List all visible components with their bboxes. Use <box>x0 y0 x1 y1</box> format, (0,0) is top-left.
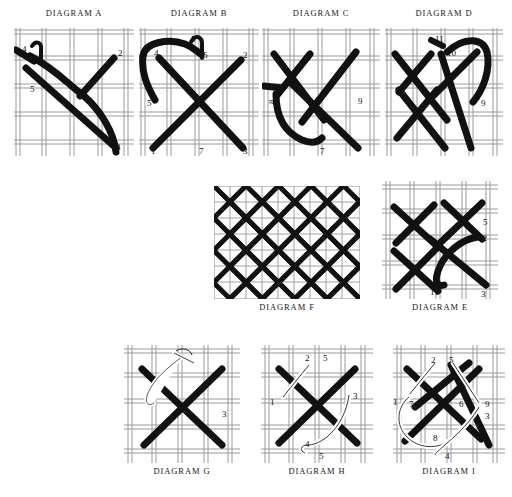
svg-text:1: 1 <box>270 397 275 407</box>
svg-text:7: 7 <box>320 146 325 156</box>
svg-text:12: 12 <box>478 233 487 243</box>
svg-text:2: 2 <box>305 353 310 363</box>
diagram-d-figure: 11 10 9 <box>385 28 503 156</box>
svg-text:2: 2 <box>431 355 436 365</box>
svg-text:4: 4 <box>445 451 450 461</box>
svg-text:4: 4 <box>22 44 27 54</box>
svg-text:5: 5 <box>323 353 328 363</box>
diagram-f-caption: DIAGRAM F <box>214 302 360 312</box>
svg-text:3: 3 <box>116 142 121 152</box>
diagram-c: DIAGRAM C 8 9 7 <box>262 8 380 156</box>
svg-text:2: 2 <box>243 50 248 60</box>
svg-text:11: 11 <box>430 287 439 297</box>
diagram-i-caption: DIAGRAM I <box>393 466 505 476</box>
svg-text:5: 5 <box>30 84 35 94</box>
svg-text:3: 3 <box>481 289 486 299</box>
diagram-h-caption: DIAGRAM H <box>261 466 373 476</box>
diagram-g-caption: DIAGRAM G <box>124 466 240 476</box>
diagram-b-caption: DIAGRAM B <box>139 8 259 18</box>
svg-text:6: 6 <box>459 399 464 409</box>
svg-text:8: 8 <box>433 433 438 443</box>
diagram-f: DIAGRAM F <box>214 186 360 321</box>
svg-text:10: 10 <box>447 48 457 58</box>
svg-text:9: 9 <box>481 98 486 108</box>
svg-text:5: 5 <box>191 34 196 44</box>
svg-text:8: 8 <box>267 99 277 104</box>
diagram-h-figure: 2 5 1 3 4 5 <box>261 345 373 463</box>
diagram-b: DIAGRAM B 4 5 6 2 5 <box>139 8 259 156</box>
svg-text:3: 3 <box>353 391 358 401</box>
diagram-e-figure: 5 12 11 3 <box>382 181 498 299</box>
svg-text:4: 4 <box>154 48 159 58</box>
diagram-i-figure: 2 5 1 7 6 9 3 8 4 <box>393 345 505 463</box>
diagram-e-caption: DIAGRAM E <box>382 302 498 312</box>
svg-text:3: 3 <box>485 411 490 421</box>
diagram-sheet: DIAGRAM A 4 2 5 3 <box>0 0 512 497</box>
svg-text:5: 5 <box>319 451 324 461</box>
diagram-d-caption: DIAGRAM D <box>385 8 503 18</box>
svg-text:4: 4 <box>305 439 310 449</box>
diagram-c-figure: 8 9 7 <box>262 28 380 156</box>
svg-text:1: 1 <box>393 397 398 407</box>
diagram-a: DIAGRAM A 4 2 5 3 <box>14 8 134 156</box>
diagram-h: 2 5 1 3 4 5 DIAGRAM H <box>261 345 373 485</box>
svg-text:9: 9 <box>485 399 490 409</box>
svg-text:11: 11 <box>435 34 444 44</box>
svg-text:3: 3 <box>243 146 248 156</box>
diagram-f-figure <box>214 186 360 299</box>
diagram-a-figure: 4 2 5 3 <box>14 28 134 156</box>
svg-text:5: 5 <box>449 355 454 365</box>
diagram-d: DIAGRAM D 11 10 <box>385 8 503 156</box>
diagram-c-caption: DIAGRAM C <box>262 8 380 18</box>
diagram-b-figure: 4 5 6 2 5 1 7 3 <box>139 28 259 156</box>
diagram-i: 2 5 1 7 6 9 3 8 4 DIAGRAM I <box>393 345 505 485</box>
svg-text:1: 1 <box>151 146 156 156</box>
svg-text:3: 3 <box>222 409 227 419</box>
diagram-g: 3 DIAGRAM G <box>124 345 240 485</box>
diagram-e: 5 12 11 3 DIAGRAM E <box>382 181 498 321</box>
svg-text:5: 5 <box>147 98 152 108</box>
svg-text:5: 5 <box>483 217 488 227</box>
svg-text:2: 2 <box>118 48 123 58</box>
svg-text:9: 9 <box>358 96 363 106</box>
svg-text:6: 6 <box>203 50 208 60</box>
svg-text:7: 7 <box>409 399 414 409</box>
svg-text:7: 7 <box>199 146 204 156</box>
diagram-g-figure: 3 <box>124 345 240 463</box>
diagram-a-caption: DIAGRAM A <box>14 8 134 18</box>
step-numbers: 3 <box>222 409 227 419</box>
